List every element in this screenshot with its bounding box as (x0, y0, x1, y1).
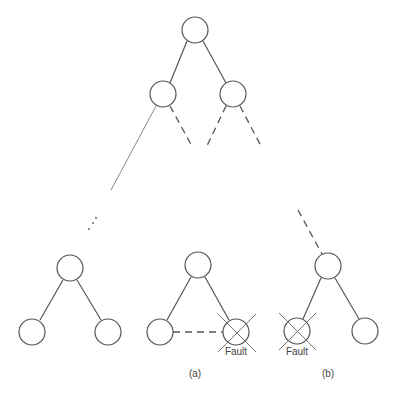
subtree-right-node (95, 319, 121, 345)
a-root-node (185, 252, 211, 278)
b-root-node (315, 253, 341, 279)
dashed-edge (170, 106, 193, 148)
edge-root-right (203, 41, 226, 83)
edge (205, 277, 229, 320)
left-child-node (150, 81, 176, 107)
edge (303, 278, 321, 319)
dashed-edge (240, 106, 262, 148)
a-left-node (147, 319, 173, 345)
edge (40, 280, 63, 320)
dashed-parent-edge (298, 210, 322, 254)
right-child-node (220, 81, 246, 107)
fault-label-b: Fault (286, 346, 308, 357)
tree-diagram: Fault (a) Fault (b) (0, 0, 397, 393)
ellipsis-dot (95, 217, 97, 219)
edge (167, 277, 191, 320)
b-right-node (352, 318, 378, 344)
diagram-canvas: Fault (a) Fault (b) (0, 0, 397, 393)
caption-a: (a) (189, 368, 201, 379)
ellipsis-dot (88, 228, 90, 230)
edge (77, 280, 101, 320)
faint-edge (111, 106, 156, 190)
subtree-root-node (57, 255, 83, 281)
fault-label-a: Fault (225, 346, 247, 357)
ellipsis-dot (92, 222, 94, 224)
dashed-edge (206, 106, 226, 148)
subfigure-b: Fault (b) (279, 210, 378, 379)
subtree-plain (19, 255, 121, 345)
edge-root-left (170, 41, 187, 83)
root-node (182, 17, 208, 43)
subfigure-a: Fault (a) (147, 252, 256, 379)
edge (335, 278, 359, 319)
subtree-left-node (19, 319, 45, 345)
caption-b: (b) (322, 368, 334, 379)
top-tree (88, 17, 262, 230)
